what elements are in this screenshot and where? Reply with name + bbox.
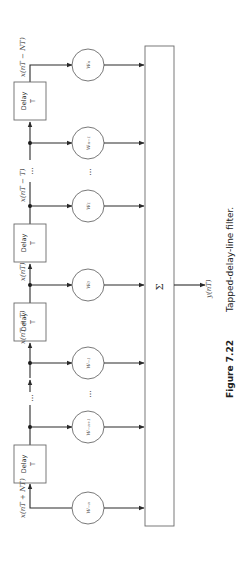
svg-text:w₋₁: w₋₁ xyxy=(84,357,92,369)
svg-text:w₋ₙ₊₁: w₋ₙ₊₁ xyxy=(84,418,92,436)
output-end-line xyxy=(30,65,72,82)
sigma-symbol: Σ xyxy=(154,283,165,290)
delay-line-ellipsis-lower: … xyxy=(26,394,35,402)
caption-number: Figure 7.22 xyxy=(225,340,235,398)
delay-period: T xyxy=(29,320,37,325)
delay-line xyxy=(30,65,72,508)
coef-w-0: w₀ xyxy=(72,269,144,301)
svg-text:w₋ₙ: w₋ₙ xyxy=(84,502,92,514)
coef-w-N-minus-1: wₙ₋₁ xyxy=(72,127,144,159)
tap-w-minus-1 xyxy=(28,361,72,365)
label-tap-minus-T: x(nT − T) xyxy=(19,168,27,202)
coef-w-N: wₙ xyxy=(72,49,144,81)
svg-text:wₙ: wₙ xyxy=(84,61,92,70)
coef-w-minus-1: w₋₁ xyxy=(72,347,144,379)
input-line xyxy=(30,484,72,508)
label-output-end: x(nT − NT) xyxy=(19,37,27,77)
delay-period: T xyxy=(29,241,37,246)
delay-label: Delay xyxy=(20,455,28,474)
coef-ellipsis-lower: … xyxy=(84,390,93,398)
label-tap-plus-T: x(nT + T) xyxy=(19,310,27,344)
tap-w-0 xyxy=(28,283,72,287)
delay-period: T xyxy=(29,99,37,104)
figure-caption: Figure 7.22 Tapped-delay-line filter. xyxy=(225,207,235,398)
svg-text:wₙ₋₁: wₙ₋₁ xyxy=(84,136,92,150)
label-input: x(nT + NT) xyxy=(19,478,27,518)
tap-w-N-minus-1 xyxy=(28,141,72,145)
svg-text:w₁: w₁ xyxy=(84,202,92,210)
coef-w-1: w₁ xyxy=(72,190,144,222)
label-tap-0: x(nT) xyxy=(19,262,27,281)
delay-block-1: Delay T xyxy=(14,445,46,483)
svg-text:w₀: w₀ xyxy=(84,281,92,290)
tap-w-minus-N-plus-1 xyxy=(28,425,72,429)
coef-w-minus-N-plus-1: w₋ₙ₊₁ xyxy=(72,411,144,443)
delay-block-3: Delay T xyxy=(14,224,46,262)
label-output: y(nT) xyxy=(205,279,213,299)
delay-label: Delay xyxy=(20,92,28,111)
delay-label: Delay xyxy=(20,234,28,253)
delay-period: T xyxy=(29,462,37,467)
coef-ellipsis-upper: … xyxy=(84,168,93,176)
caption-text: Tapped-delay-line filter. xyxy=(225,207,235,313)
coef-w-minus-N: w₋ₙ xyxy=(72,492,144,524)
delay-line-ellipsis-upper: … xyxy=(26,167,35,175)
tapped-delay-line-diagram: Delay T Delay T Delay T Delay T … … x( xyxy=(0,0,238,563)
delay-block-4: Delay T xyxy=(14,82,46,120)
summer-block: Σ y(nT) xyxy=(145,46,213,526)
tap-w-1 xyxy=(28,204,72,208)
